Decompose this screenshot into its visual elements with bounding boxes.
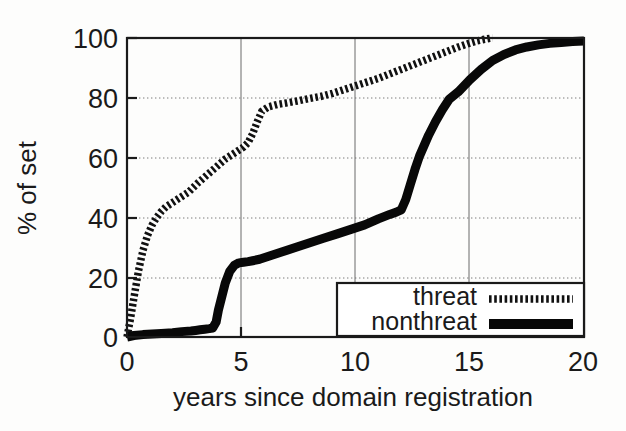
ytick-label-60: 60 xyxy=(88,144,118,174)
ytick-label-0: 0 xyxy=(103,323,118,353)
legend: threat nonthreat xyxy=(337,282,584,336)
xtick-label-0: 0 xyxy=(119,347,134,377)
ytick-label-100: 100 xyxy=(73,24,118,54)
y-tick-labels: 100 80 60 40 20 0 xyxy=(73,24,118,353)
legend-label-nonthreat: nonthreat xyxy=(371,307,477,335)
x-axis-title: years since domain registration xyxy=(173,382,533,412)
y-axis-title: % of set xyxy=(12,140,42,235)
xtick-label-15: 15 xyxy=(454,347,484,377)
xtick-label-10: 10 xyxy=(340,347,370,377)
xtick-label-5: 5 xyxy=(233,347,248,377)
legend-label-threat: threat xyxy=(413,282,477,310)
y-axis-ticks xyxy=(127,38,137,337)
x-tick-labels: 0 5 10 15 20 xyxy=(119,347,598,377)
ytick-label-20: 20 xyxy=(88,264,118,294)
ytick-label-80: 80 xyxy=(88,84,118,114)
chart-figure: 100 80 60 40 20 0 0 5 10 15 20 years sin… xyxy=(0,0,626,431)
ytick-label-40: 40 xyxy=(88,204,118,234)
cdf-line-chart: 100 80 60 40 20 0 0 5 10 15 20 years sin… xyxy=(0,0,626,431)
xtick-label-20: 20 xyxy=(568,347,598,377)
